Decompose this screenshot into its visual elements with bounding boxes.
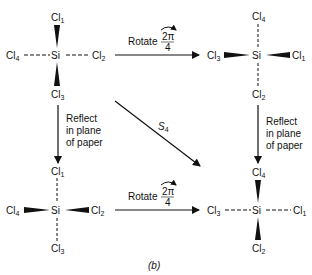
molecule-bottom-left: Si Cl1 Cl3 Cl4 Cl2 bbox=[6, 166, 104, 255]
s4-arrow: S4 bbox=[115, 101, 200, 166]
atom-right: Cl2 bbox=[92, 50, 105, 62]
arrow-line bbox=[115, 101, 200, 166]
figure-caption: (b) bbox=[148, 260, 160, 271]
rotate-label: Rotate bbox=[128, 191, 158, 202]
symmetry-diagram: Si Cl1 Cl3 Cl4 Cl2 Si Cl4 Cl2 Cl3 Cl1 Si… bbox=[0, 0, 312, 275]
wedge-bond-bottom bbox=[54, 62, 60, 86]
atom-left: Cl4 bbox=[6, 50, 19, 62]
atom-right: Cl2 bbox=[91, 205, 104, 217]
atom-left: Cl3 bbox=[207, 205, 220, 217]
wedge-bond-top bbox=[255, 180, 261, 203]
reflect-line-1: Reflect bbox=[66, 113, 97, 124]
atom-right: Cl1 bbox=[293, 205, 306, 217]
atom-si: Si bbox=[252, 50, 261, 61]
wedge-bond-top bbox=[54, 25, 60, 48]
atom-left: Cl3 bbox=[207, 50, 220, 62]
atom-si: Si bbox=[51, 50, 60, 61]
wedge-bond-left bbox=[224, 52, 250, 58]
reflect-line-1: Reflect bbox=[266, 116, 297, 127]
rotation-icon bbox=[161, 27, 176, 30]
atom-si: Si bbox=[51, 205, 60, 216]
reflect-arrow-left: Reflect in plane of paper bbox=[58, 105, 103, 163]
reflect-line-2: in plane bbox=[66, 125, 101, 136]
atom-top: Cl4 bbox=[252, 167, 265, 179]
rotation-icon bbox=[161, 182, 176, 185]
rotate-label: Rotate bbox=[128, 36, 158, 47]
atom-top: Cl4 bbox=[252, 11, 265, 23]
wedge-bond-left bbox=[24, 207, 50, 213]
s4-label: S4 bbox=[158, 121, 169, 133]
reflect-line-3: of paper bbox=[66, 137, 103, 148]
rotate-arrow-top: Rotate 2π 4 bbox=[115, 27, 199, 55]
wedge-bond-right bbox=[65, 207, 89, 213]
atom-bottom: Cl3 bbox=[51, 89, 64, 101]
fraction-numerator: 2π bbox=[162, 31, 175, 42]
atom-bottom: Cl3 bbox=[51, 243, 64, 255]
atom-si: Si bbox=[252, 205, 261, 216]
atom-top: Cl1 bbox=[51, 166, 64, 178]
wedge-bond-right bbox=[266, 52, 290, 58]
reflect-line-2: in plane bbox=[266, 128, 301, 139]
rotate-arrow-bottom: Rotate 2π 4 bbox=[115, 182, 199, 210]
atom-bottom: Cl2 bbox=[252, 89, 265, 101]
molecule-top-left: Si Cl1 Cl3 Cl4 Cl2 bbox=[6, 12, 105, 101]
fraction-denominator: 4 bbox=[165, 42, 171, 53]
atom-right: Cl1 bbox=[292, 50, 305, 62]
molecule-bottom-right: Si Cl4 Cl2 Cl3 Cl1 bbox=[207, 167, 306, 255]
fraction-denominator: 4 bbox=[165, 197, 171, 208]
reflect-line-3: of paper bbox=[266, 140, 303, 151]
wedge-bond-bottom bbox=[255, 217, 261, 240]
reflect-arrow-right: Reflect in plane of paper bbox=[258, 105, 303, 163]
atom-left: Cl4 bbox=[6, 205, 19, 217]
molecule-top-right: Si Cl4 Cl2 Cl3 Cl1 bbox=[207, 11, 305, 101]
atom-top: Cl1 bbox=[51, 12, 64, 24]
fraction-numerator: 2π bbox=[162, 186, 175, 197]
atom-bottom: Cl2 bbox=[252, 243, 265, 255]
